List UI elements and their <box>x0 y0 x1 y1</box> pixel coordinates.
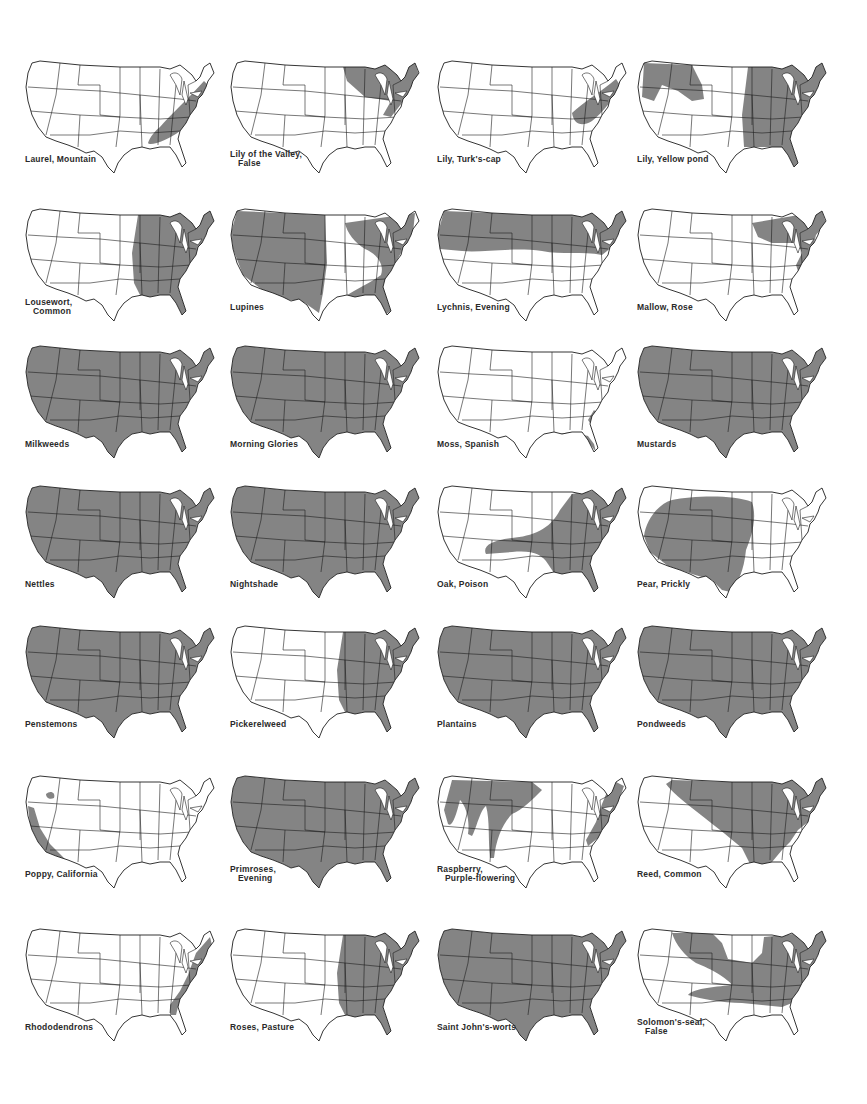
map-label: Penstemons <box>25 720 78 729</box>
map-label: Lily of the Valley,False <box>230 150 302 168</box>
range-map-panel: Penstemons <box>20 620 225 755</box>
map-label: Raspberry,Purple-flowering <box>437 865 515 883</box>
map-label: Lily, Yellow pond <box>637 155 709 164</box>
range-map-panel: Lily, Yellow pond <box>632 55 837 190</box>
map-label: Pondweeds <box>637 720 686 729</box>
range-map-panel: Nightshade <box>225 480 430 615</box>
range-map-panel: Lychnis, Evening <box>432 203 637 338</box>
range-map-panel: Pickerelweed <box>225 620 430 755</box>
map-label: Roses, Pasture <box>230 1023 294 1032</box>
map-label-line1: Nettles <box>25 579 55 589</box>
map-label-line1: Lupines <box>230 302 264 312</box>
map-label: Pickerelweed <box>230 720 286 729</box>
map-label-line1: Oak, Poison <box>437 579 488 589</box>
map-label-line2: Purple-flowering <box>437 874 515 883</box>
range-map-panel: Oak, Poison <box>432 480 637 615</box>
range-map-panel: Nettles <box>20 480 225 615</box>
range-map-panel: Primroses,Evening <box>225 770 430 905</box>
map-label-line1: Pickerelweed <box>230 719 286 729</box>
range-map-panel: Mustards <box>632 340 837 475</box>
map-label-line1: Nightshade <box>230 579 278 589</box>
map-label-line1: Lychnis, Evening <box>437 302 510 312</box>
map-label: Lily, Turk's-cap <box>437 155 501 164</box>
map-label: Laurel, Mountain <box>25 155 96 164</box>
range-map-panel: Laurel, Mountain <box>20 55 225 190</box>
map-label: Lychnis, Evening <box>437 303 510 312</box>
map-label-line1: Mustards <box>637 439 676 449</box>
range-map-panel: Lily, Turk's-cap <box>432 55 637 190</box>
map-label: Reed, Common <box>637 870 702 879</box>
map-label-line1: Laurel, Mountain <box>25 154 96 164</box>
range-map-panel: Poppy, California <box>20 770 225 905</box>
range-map-panel: Lily of the Valley,False <box>225 55 430 190</box>
range-map-panel: Pondweeds <box>632 620 837 755</box>
range-map-panel: Rhododendrons <box>20 923 225 1058</box>
map-label-line1: Rhododendrons <box>25 1022 93 1032</box>
range-map-page: Laurel, Mountain Lily of the Valley,Fals… <box>0 0 867 1104</box>
map-label: Solomon's-seal,False <box>637 1018 705 1036</box>
map-label-line1: Milkweeds <box>25 439 69 449</box>
map-label: Primroses,Evening <box>230 865 276 883</box>
range-map-panel: Milkweeds <box>20 340 225 475</box>
range-map-panel: Morning Glories <box>225 340 430 475</box>
range-map-panel: Plantains <box>432 620 637 755</box>
map-label: Milkweeds <box>25 440 69 449</box>
map-label: Lupines <box>230 303 264 312</box>
map-label-line1: Pondweeds <box>637 719 686 729</box>
map-label: Plantains <box>437 720 477 729</box>
range-map-panel: Reed, Common <box>632 770 837 905</box>
range-map-panel: Pear, Prickly <box>632 480 837 615</box>
map-label-line1: Penstemons <box>25 719 78 729</box>
map-label-line2: Evening <box>230 874 276 883</box>
map-label-line1: Roses, Pasture <box>230 1022 294 1032</box>
range-map-panel: Roses, Pasture <box>225 923 430 1058</box>
map-label: Nettles <box>25 580 55 589</box>
map-label-line1: Poppy, California <box>25 869 98 879</box>
range-map-panel: Moss, Spanish <box>432 340 637 475</box>
range-map-panel: Lousewort,Common <box>20 203 225 338</box>
map-label-line1: Moss, Spanish <box>437 439 499 449</box>
map-label-line1: Morning Glories <box>230 439 298 449</box>
map-label: Rhododendrons <box>25 1023 93 1032</box>
map-label-line1: Reed, Common <box>637 869 702 879</box>
map-label-line2: False <box>230 159 302 168</box>
map-label: Mustards <box>637 440 676 449</box>
map-label: Saint John's-worts <box>437 1023 516 1032</box>
range-map-panel: Saint John's-worts <box>432 923 637 1058</box>
map-label-line1: Lily, Yellow pond <box>637 154 709 164</box>
map-label-line1: Mallow, Rose <box>637 302 693 312</box>
map-label-line1: Pear, Prickly <box>637 579 690 589</box>
range-map-panel: Solomon's-seal,False <box>632 923 837 1058</box>
map-label: Lousewort,Common <box>25 298 72 316</box>
map-label-line2: Common <box>25 307 72 316</box>
map-label-line1: Plantains <box>437 719 477 729</box>
map-label: Morning Glories <box>230 440 298 449</box>
map-label-line2: False <box>637 1027 705 1036</box>
map-label: Pear, Prickly <box>637 580 690 589</box>
range-map-panel: Raspberry,Purple-flowering <box>432 770 637 905</box>
map-label: Nightshade <box>230 580 278 589</box>
range-map-panel: Lupines <box>225 203 430 338</box>
map-label: Moss, Spanish <box>437 440 499 449</box>
map-label: Oak, Poison <box>437 580 488 589</box>
range-map-panel: Mallow, Rose <box>632 203 837 338</box>
map-label-line1: Lily, Turk's-cap <box>437 154 501 164</box>
map-label-line1: Saint John's-worts <box>437 1022 516 1032</box>
map-label: Mallow, Rose <box>637 303 693 312</box>
map-label: Poppy, California <box>25 870 98 879</box>
